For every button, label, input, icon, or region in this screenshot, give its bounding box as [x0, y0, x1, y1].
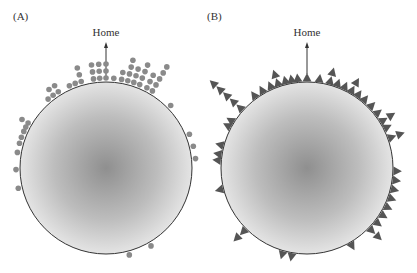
bearing-triangle: [269, 68, 280, 79]
bearing-dot: [133, 73, 139, 79]
bearing-dot: [157, 76, 163, 82]
bearing-dot: [103, 75, 109, 81]
bearing-dot: [15, 185, 21, 191]
bearing-dot: [52, 83, 58, 89]
bearing-dot: [46, 87, 52, 93]
bearing-dot: [160, 70, 166, 76]
bearing-dot: [125, 78, 131, 84]
bearing-dot: [91, 76, 97, 82]
bearing-dot: [56, 89, 62, 95]
bearing-triangle: [386, 109, 398, 121]
bearing-dot: [13, 167, 19, 173]
bearing-dot: [127, 71, 133, 77]
bearing-dot: [89, 62, 95, 68]
bearing-dot: [78, 79, 84, 85]
bearing-dot: [17, 140, 23, 146]
sphere-b: [221, 82, 393, 254]
home-label-b: Home: [294, 26, 321, 38]
bearing-triangle: [212, 155, 221, 165]
bearing-dot: [187, 132, 193, 138]
bearing-dot: [72, 81, 78, 87]
bearing-triangle: [303, 73, 312, 82]
bearing-triangle: [395, 128, 406, 139]
bearing-dot: [103, 68, 109, 74]
bearing-dot: [142, 69, 148, 75]
bearing-dot: [164, 64, 170, 70]
bearing-triangle: [315, 73, 325, 83]
home-arrow-b: [305, 42, 309, 74]
bearing-dot: [127, 252, 133, 258]
bearing-dot: [137, 82, 143, 88]
bearing-triangle: [393, 166, 402, 175]
bearing-dot: [193, 156, 199, 162]
bearing-dot: [103, 61, 109, 67]
bearing-dot: [19, 117, 25, 123]
panel-a: (A) Home: [13, 10, 198, 258]
bearing-dot: [144, 85, 150, 91]
bearing-dot: [96, 68, 102, 74]
bearing-dot: [19, 134, 25, 140]
bearing-dot: [15, 150, 21, 156]
home-arrow-a: [104, 42, 108, 80]
bearing-dot: [90, 69, 96, 75]
bearing-dot: [96, 62, 102, 68]
bearing-triangle: [392, 176, 402, 186]
bearing-dot: [45, 96, 51, 102]
bearing-dot: [75, 65, 81, 71]
bearing-dot: [128, 64, 134, 70]
bearing-dot: [67, 83, 73, 89]
bearing-dot: [145, 62, 151, 68]
bearing-dot: [191, 143, 197, 149]
bearing-dot: [130, 58, 136, 64]
bearing-triangle: [327, 66, 338, 77]
sphere-a: [20, 82, 192, 254]
bearing-dot: [148, 243, 154, 249]
bearing-dot: [21, 129, 27, 135]
bearing-dot: [119, 77, 125, 83]
bearing-triangle: [286, 252, 296, 262]
bearing-dot: [140, 75, 146, 81]
panel-b-label: (B): [207, 10, 222, 23]
bearing-dot: [77, 72, 83, 78]
panel-a-label: (A): [13, 10, 29, 23]
bearing-dot: [135, 66, 141, 72]
bearing-dot: [97, 75, 103, 81]
bearing-dot: [147, 79, 153, 85]
bearing-dot: [150, 88, 156, 94]
bearing-dot: [153, 82, 159, 88]
home-label-a: Home: [93, 26, 120, 38]
bearing-dot: [150, 73, 156, 79]
bearing-dot: [120, 70, 126, 76]
bearing-dot: [168, 103, 174, 109]
bearing-dot: [131, 80, 137, 86]
panel-b: (B) Home: [207, 10, 407, 262]
bearing-dot: [50, 92, 56, 98]
bearing-dot: [111, 76, 117, 82]
figure-canvas: (A) Home (B) Home: [0, 0, 417, 273]
bearing-triangle: [351, 76, 363, 88]
